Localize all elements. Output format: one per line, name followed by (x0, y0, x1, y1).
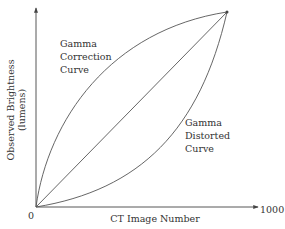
y-axis-title-line2: (lumens) (16, 89, 27, 131)
y-axis-title: Observed Brightness (lumens) (5, 59, 27, 160)
correction-label-line3: Curve (60, 64, 89, 75)
distorted-label-line1: Gamma (185, 117, 222, 128)
x-max-label: 1000 (260, 204, 284, 215)
correction-label-line1: Gamma (60, 38, 97, 49)
endpoint-marker (226, 11, 229, 14)
gamma-curve-diagram: Gamma Correction Curve Gamma Distorted C… (0, 0, 285, 229)
y-axis-title-line1: Observed Brightness (5, 59, 16, 160)
distorted-label-line2: Distorted (185, 130, 230, 141)
origin-label: 0 (28, 210, 34, 221)
x-axis-title: CT Image Number (110, 213, 200, 224)
correction-label-line2: Correction (60, 51, 112, 62)
distorted-label-line3: Curve (185, 143, 214, 154)
